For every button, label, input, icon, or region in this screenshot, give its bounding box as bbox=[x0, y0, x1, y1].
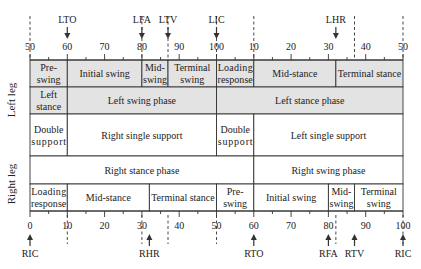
phase-label: Pre- bbox=[227, 186, 244, 197]
phase-label: Loading bbox=[218, 62, 253, 73]
phase-label: Left bbox=[40, 89, 57, 100]
phase-cell: Loadingresponse bbox=[30, 184, 67, 211]
gait-event-lfa: LFA bbox=[133, 14, 152, 39]
phase-cell: Left single support bbox=[254, 114, 403, 156]
phase-cell: Terminalswing bbox=[168, 60, 216, 87]
event-label: RTO bbox=[244, 248, 263, 259]
phase-cell: Left stance phase bbox=[217, 87, 404, 114]
phase-label: stance bbox=[36, 101, 62, 112]
tick-label: 80 bbox=[323, 220, 333, 231]
phase-label: Left single support bbox=[291, 130, 367, 141]
phase-label: swing bbox=[37, 74, 61, 85]
arrow-down-icon bbox=[333, 33, 339, 39]
phase-label: Mid-stance bbox=[86, 192, 132, 203]
gait-event-lhr: LHR bbox=[326, 14, 346, 39]
phase-label: swing bbox=[180, 74, 204, 85]
phase-cell: Initial swing bbox=[67, 60, 142, 87]
top-axis: 50607080901001020304050LTOLFALTVLICLHR bbox=[25, 14, 408, 60]
event-label: LFA bbox=[133, 14, 152, 25]
tick-label: 60 bbox=[62, 41, 72, 52]
bottom-axis: 0102030405060708090100RICRHRRTORFARTVRIC bbox=[22, 211, 412, 259]
tick-label: 90 bbox=[174, 41, 184, 52]
arrow-down-icon bbox=[165, 33, 171, 39]
tick-label: 20 bbox=[100, 220, 110, 231]
phase-cell: Terminalswing bbox=[355, 184, 403, 211]
phase-label: Right swing phase bbox=[291, 165, 365, 176]
row-left-leg-phases: LeftstanceLeft swing phaseLeft stance ph… bbox=[30, 87, 403, 114]
event-label: LTV bbox=[159, 14, 178, 25]
phase-label: Terminal bbox=[361, 186, 397, 197]
phase-cell: Initial swing bbox=[254, 184, 329, 211]
arrow-up-icon bbox=[325, 234, 331, 240]
phase-label: Double bbox=[34, 124, 64, 135]
phase-label: Pre- bbox=[40, 62, 57, 73]
row-support-phases: DoublesupportRight single supportDoubles… bbox=[30, 114, 403, 156]
gait-event-rto: RTO bbox=[244, 234, 263, 259]
row-left-leg-subphases: Pre-swingInitial swingMid-swingTerminals… bbox=[30, 60, 403, 87]
event-label: RHR bbox=[139, 248, 160, 259]
phase-cell: Loadingresponse bbox=[217, 60, 254, 87]
phase-label: Double bbox=[220, 124, 250, 135]
arrow-up-icon bbox=[251, 234, 257, 240]
event-label: RFA bbox=[319, 248, 338, 259]
phase-cell: Mid-swing bbox=[142, 60, 168, 87]
phase-cell: Doublesupport bbox=[30, 114, 67, 156]
phase-label: support bbox=[31, 136, 66, 147]
phase-cell: Right swing phase bbox=[254, 156, 403, 184]
gait-event-lto: LTO bbox=[58, 14, 76, 39]
event-label: RIC bbox=[395, 248, 412, 259]
phase-label: swing bbox=[223, 198, 247, 209]
arrow-up-icon bbox=[352, 234, 358, 240]
event-label: LTO bbox=[58, 14, 76, 25]
phase-label: Initial swing bbox=[79, 68, 129, 79]
tick-label: 40 bbox=[174, 220, 184, 231]
phase-cell: Pre-swing bbox=[30, 60, 67, 87]
phase-cell: Right single support bbox=[67, 114, 216, 156]
phase-label: swing bbox=[143, 74, 167, 85]
arrow-down-icon bbox=[214, 33, 220, 39]
tick-label: 90 bbox=[361, 220, 371, 231]
event-label: RIC bbox=[22, 248, 39, 259]
phase-cell: Doublesupport bbox=[217, 114, 254, 156]
arrow-down-icon bbox=[64, 33, 70, 39]
phase-cell: Mid-swing bbox=[328, 184, 354, 211]
right-leg-label: Right leg bbox=[5, 163, 17, 204]
phase-label: Terminal stance bbox=[338, 68, 402, 79]
arrow-down-icon bbox=[139, 33, 145, 39]
tick-label: 60 bbox=[249, 220, 259, 231]
phase-label: Right single support bbox=[101, 130, 182, 141]
gait-cycle-diagram: Pre-swingInitial swingMid-swingTerminals… bbox=[0, 0, 421, 269]
event-label: RTV bbox=[345, 248, 365, 259]
phase-label: Mid-stance bbox=[272, 68, 318, 79]
event-label: LIC bbox=[208, 14, 224, 25]
left-leg-label: Left leg bbox=[5, 82, 17, 117]
phase-label: response bbox=[218, 74, 254, 85]
phase-label: Mid- bbox=[145, 62, 165, 73]
row-right-leg-phases: Right stance phaseRight swing phase bbox=[30, 156, 403, 184]
event-label: LHR bbox=[326, 14, 346, 25]
gait-event-ric: RIC bbox=[22, 234, 39, 259]
phase-cell: Mid-stance bbox=[67, 184, 149, 211]
phase-label: swing bbox=[367, 198, 391, 209]
phase-label: Left stance phase bbox=[275, 95, 345, 106]
phase-label: Terminal bbox=[174, 62, 210, 73]
tick-label: 0 bbox=[28, 220, 33, 231]
tick-label: 70 bbox=[286, 220, 296, 231]
tick-label: 30 bbox=[323, 41, 333, 52]
phase-cell: Right stance phase bbox=[30, 156, 254, 184]
phase-cell: Mid-stance bbox=[254, 60, 336, 87]
row-right-leg-subphases: LoadingresponseMid-stanceTerminal stance… bbox=[30, 184, 403, 211]
arrow-up-icon bbox=[400, 234, 406, 240]
phase-label: Right stance phase bbox=[104, 165, 180, 176]
phase-label: swing bbox=[330, 198, 354, 209]
phase-rows: Pre-swingInitial swingMid-swingTerminals… bbox=[30, 60, 403, 211]
phase-cell: Pre-swing bbox=[217, 184, 254, 211]
tick-label: 70 bbox=[100, 41, 110, 52]
gait-event-ltv: LTV bbox=[159, 14, 178, 39]
gait-event-rtv: RTV bbox=[345, 234, 365, 259]
arrow-up-icon bbox=[27, 234, 33, 240]
phase-label: response bbox=[31, 198, 67, 209]
phase-label: support bbox=[218, 136, 253, 147]
arrow-up-icon bbox=[146, 234, 152, 240]
phase-label: Loading bbox=[31, 186, 66, 197]
